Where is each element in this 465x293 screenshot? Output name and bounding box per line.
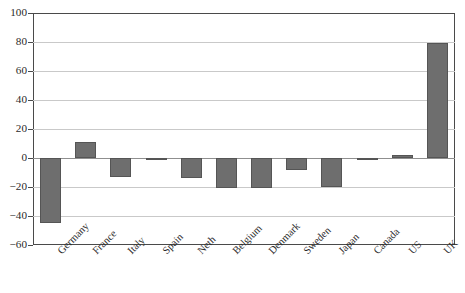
x-axis-category-labels: GermanyFranceItalySpainNethBelgiumDenmar… <box>0 0 465 293</box>
x-category-label: Sweden <box>302 225 333 256</box>
bar-chart: −60−40−20020406080100 GermanyFranceItaly… <box>0 0 465 293</box>
x-category-label: US <box>407 239 424 256</box>
x-category-label: Japan <box>337 232 362 257</box>
x-category-label: Canada <box>372 227 402 257</box>
x-category-label: Italy <box>126 235 147 256</box>
x-category-label: Spain <box>161 232 186 257</box>
x-category-label: Belgium <box>231 223 264 256</box>
x-category-label: Germany <box>56 221 91 256</box>
x-category-label: Denmark <box>267 221 302 256</box>
x-category-label: Neth <box>196 234 218 256</box>
x-category-label: UK <box>442 238 460 256</box>
x-category-label: France <box>91 229 119 257</box>
